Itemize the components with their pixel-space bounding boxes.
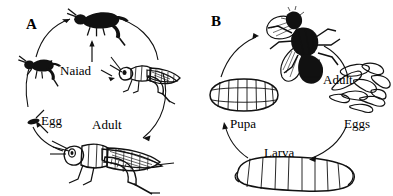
label-adult-b: Adult — [323, 73, 353, 86]
naiad-pointer-up-head — [89, 40, 94, 46]
panel-b-artwork — [196, 0, 393, 196]
label-eggs: Eggs — [344, 117, 370, 130]
label-egg: Egg — [41, 114, 62, 127]
arrowhead-adult — [143, 135, 151, 141]
naiad-pointer-right-head — [108, 77, 115, 81]
arrowhead-nymph2 — [62, 19, 70, 23]
grasshopper-adult — [50, 141, 174, 194]
arrow-arc-nymph1-to-nymph2 — [36, 19, 70, 57]
panel-b-complete-metamorphosis: B — [196, 0, 393, 196]
arrow-arc-eggs-to-larva — [312, 127, 346, 158]
nymph-late-instar — [110, 57, 180, 104]
egg-cluster — [330, 63, 391, 112]
panel-a-incomplete-metamorphosis: A — [0, 0, 196, 196]
nymph-mid-instar — [67, 9, 129, 46]
naiad-pointer-right-line — [101, 70, 112, 76]
maggot-larva — [235, 157, 354, 191]
nymph-early-instar — [18, 56, 61, 86]
label-pupa: Pupa — [230, 117, 256, 130]
arrowhead-pupa — [222, 122, 228, 130]
cycle-arrows-b — [221, 33, 348, 162]
arrowhead-adult-b — [252, 33, 259, 39]
fly-pupa-puparium — [210, 79, 278, 111]
label-naiad: Naiad — [60, 64, 91, 77]
life-cycle-figure: A — [0, 0, 393, 196]
label-adult-a: Adult — [92, 118, 122, 131]
arrow-arc-adult-to-egg — [33, 127, 63, 151]
panel-a-artwork — [0, 0, 196, 196]
label-larva: Larva — [264, 146, 294, 159]
arrow-arc-pupa-to-adult — [221, 37, 256, 77]
